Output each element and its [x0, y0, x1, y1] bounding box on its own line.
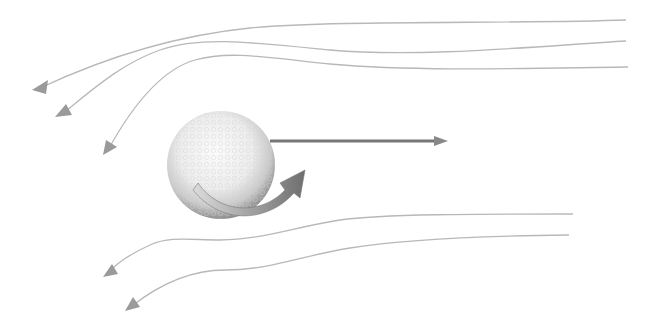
streamline-bottom-2	[132, 235, 569, 306]
streamline-top-1	[40, 20, 626, 88]
velocity-arrow	[270, 136, 448, 146]
streamline-bottom-1	[108, 214, 573, 273]
arrowhead-icon	[125, 297, 140, 311]
streamline-top-2	[62, 41, 626, 114]
arrowhead-icon	[32, 80, 48, 94]
diagram-canvas	[0, 0, 661, 336]
streamlines-group	[32, 20, 628, 311]
velocity-arrowhead-icon	[434, 136, 448, 146]
magnus-effect-diagram	[0, 0, 661, 336]
arrowhead-icon	[103, 140, 117, 155]
arrowhead-icon	[55, 104, 72, 117]
